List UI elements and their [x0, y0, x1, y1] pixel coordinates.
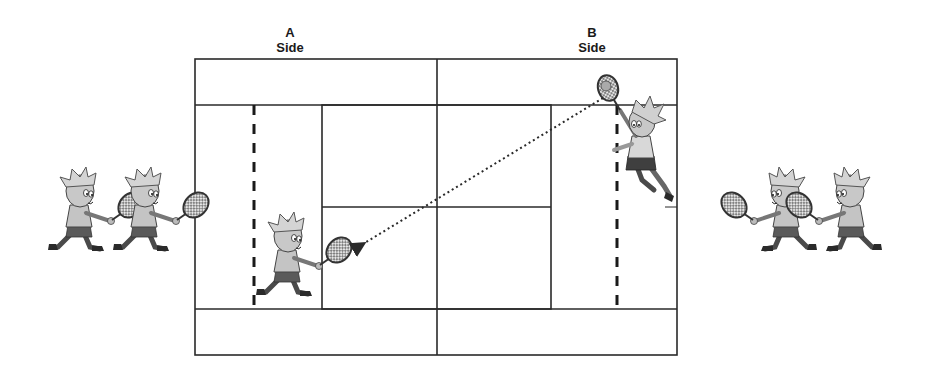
court-lines	[195, 59, 677, 355]
serve-trajectory-arrow	[363, 98, 603, 244]
player-b-server	[595, 73, 674, 202]
player-a-receiver	[256, 212, 357, 296]
tennis-court-diagram	[0, 0, 930, 376]
